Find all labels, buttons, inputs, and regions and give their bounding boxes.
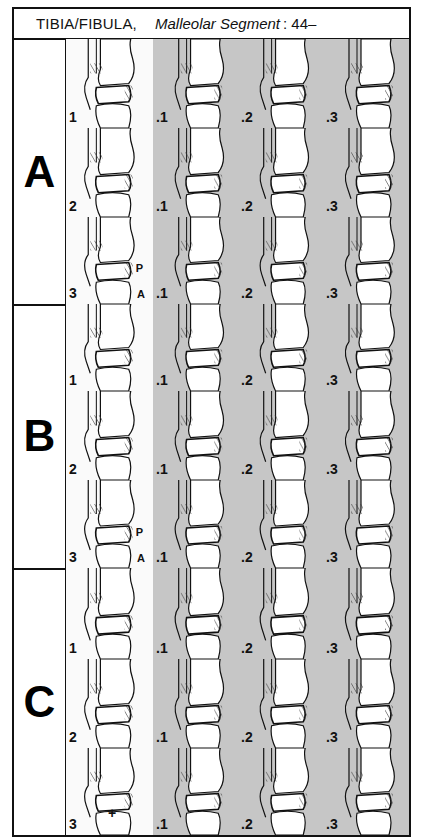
- subgroup-label: .1: [156, 372, 168, 388]
- orientation-marker: P: [136, 262, 143, 274]
- segment-label: Malleolar Segment: [155, 15, 280, 32]
- subgroup-diagram-cell: .2: [238, 659, 324, 748]
- group-c: C 1 .1 .2 .3: [14, 568, 409, 835]
- subgroup-label: .1: [156, 198, 168, 214]
- subgroup-label: .3: [326, 285, 338, 301]
- subgroup-label: .3: [326, 640, 338, 656]
- ankle-fracture-drawing: [66, 39, 153, 128]
- chart-header: TIBIA/FIBULA, Malleolar Segment : 44–: [14, 9, 409, 40]
- subgroup-diagram-cell: .3: [323, 39, 409, 128]
- group-letter-cell: C: [14, 568, 66, 835]
- group-diagram-cell: 3+: [66, 748, 154, 835]
- subgroup-label: .1: [156, 109, 168, 125]
- ankle-fracture-drawing: [66, 568, 153, 659]
- ankle-fracture-drawing: [66, 128, 153, 217]
- subgroup-label: .3: [326, 729, 338, 745]
- group-diagram-cell: 3PA: [66, 480, 154, 568]
- ao-classification-chart: TIBIA/FIBULA, Malleolar Segment : 44– A …: [12, 7, 411, 837]
- subgroup-diagram-cell: .2: [238, 128, 324, 217]
- classification-row: 3PA .1 .2 .3: [66, 217, 409, 304]
- ankle-fracture-drawing: [66, 391, 153, 480]
- classification-row: 3+ .1 .2 .3: [66, 748, 409, 835]
- ankle-fracture-drawing: [66, 748, 153, 835]
- group-diagram-cell: 3PA: [66, 217, 154, 304]
- subgroup-label: .1: [156, 549, 168, 565]
- subgroup-diagram-cell: .3: [323, 480, 409, 568]
- subgroup-label: .3: [326, 461, 338, 477]
- subgroup-diagram-cell: .2: [238, 39, 324, 128]
- group-number-label: 1: [69, 372, 77, 388]
- group-number-label: 3: [69, 285, 77, 301]
- subgroup-label: .2: [241, 109, 253, 125]
- subgroup-label: .3: [326, 109, 338, 125]
- subgroup-diagram-cell: .1: [153, 128, 239, 217]
- subgroup-diagram-cell: .3: [323, 748, 409, 835]
- classification-row: 2 .1 .2 .3: [66, 659, 409, 749]
- subgroup-label: .2: [241, 285, 253, 301]
- subgroup-diagram-cell: .2: [238, 217, 324, 304]
- group-diagram-cell: 2: [66, 128, 154, 217]
- group-number-label: 2: [69, 729, 77, 745]
- subgroup-diagram-cell: .1: [153, 748, 239, 835]
- group-letter: B: [24, 411, 56, 461]
- bone-title: TIBIA/FIBULA,: [36, 15, 137, 32]
- subgroup-diagram-cell: .1: [153, 568, 239, 659]
- group-diagram-cell: 2: [66, 659, 154, 748]
- subgroup-label: .1: [156, 729, 168, 745]
- subgroup-label: .2: [241, 549, 253, 565]
- group-letter: A: [24, 147, 56, 197]
- subgroup-diagram-cell: .3: [323, 128, 409, 217]
- group-letter: C: [24, 677, 56, 727]
- group-letter-cell: B: [14, 304, 66, 568]
- group-diagram-cell: 1: [66, 568, 154, 659]
- subgroup-label: .3: [326, 549, 338, 565]
- subgroup-diagram-cell: .3: [323, 304, 409, 391]
- orientation-marker: A: [137, 288, 145, 300]
- subgroup-label: .3: [326, 816, 338, 832]
- subgroup-label: .3: [326, 198, 338, 214]
- subgroup-diagram-cell: .2: [238, 304, 324, 391]
- subgroup-diagram-cell: .3: [323, 391, 409, 480]
- classification-row: 1 .1 .2 .3: [66, 568, 409, 660]
- subgroup-diagram-cell: .1: [153, 480, 239, 568]
- ankle-fracture-drawing: [66, 304, 153, 391]
- group-number-label: 3: [69, 816, 77, 832]
- subgroup-label: .2: [241, 198, 253, 214]
- group-number-label: 1: [69, 109, 77, 125]
- group-diagram-cell: 2: [66, 391, 154, 480]
- subgroup-diagram-cell: .2: [238, 480, 324, 568]
- classification-row: 2 .1 .2 .3: [66, 128, 409, 218]
- subgroup-label: .2: [241, 461, 253, 477]
- subgroup-diagram-cell: .2: [238, 568, 324, 659]
- subgroup-diagram-cell: .2: [238, 391, 324, 480]
- group-number-label: 2: [69, 198, 77, 214]
- subgroup-label: .3: [326, 372, 338, 388]
- orientation-marker: +: [108, 805, 116, 821]
- subgroup-diagram-cell: .1: [153, 217, 239, 304]
- group-number-label: 3: [69, 549, 77, 565]
- subgroup-label: .1: [156, 461, 168, 477]
- subgroup-diagram-cell: .1: [153, 659, 239, 748]
- group-letter-cell: A: [14, 39, 66, 304]
- subgroup-label: .2: [241, 816, 253, 832]
- classification-row: 1 .1 .2 .3: [66, 304, 409, 392]
- group-diagram-cell: 1: [66, 39, 154, 128]
- subgroup-diagram-cell: .3: [323, 217, 409, 304]
- group-a: A 1 .1 .2 .3: [14, 39, 409, 306]
- orientation-marker: P: [136, 526, 143, 538]
- group-number-label: 1: [69, 640, 77, 656]
- subgroup-diagram-cell: .1: [153, 391, 239, 480]
- subgroup-label: .1: [156, 816, 168, 832]
- ankle-fracture-drawing: [66, 659, 153, 748]
- segment-code: : 44–: [283, 15, 316, 32]
- classification-row: 3PA .1 .2 .3: [66, 480, 409, 568]
- classification-row: 1 .1 .2 .3: [66, 39, 409, 129]
- subgroup-label: .2: [241, 729, 253, 745]
- subgroup-label: .2: [241, 640, 253, 656]
- subgroup-diagram-cell: .2: [238, 748, 324, 835]
- subgroup-label: .2: [241, 372, 253, 388]
- orientation-marker: A: [137, 552, 145, 564]
- subgroup-diagram-cell: .1: [153, 39, 239, 128]
- subgroup-diagram-cell: .3: [323, 568, 409, 659]
- classification-row: 2 .1 .2 .3: [66, 391, 409, 481]
